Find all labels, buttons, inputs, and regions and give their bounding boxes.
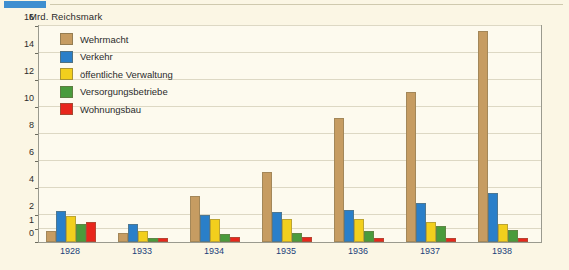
- bar-group: [262, 26, 312, 242]
- y-axis-tick: 0: [8, 228, 34, 238]
- x-axis-tick: 1936: [348, 246, 368, 256]
- bar: [292, 233, 302, 242]
- bar: [446, 238, 456, 242]
- bar: [86, 222, 96, 242]
- bar: [436, 226, 446, 242]
- bar-group: [406, 26, 456, 242]
- y-axis-tick: 12: [8, 66, 34, 76]
- bar-group: [334, 26, 384, 242]
- y-axis-tick: 2: [8, 201, 34, 211]
- bar: [282, 219, 292, 242]
- page-marker: [4, 1, 46, 8]
- y-axis-tick: 4: [8, 174, 34, 184]
- legend-item: Wehrmacht: [60, 33, 173, 45]
- y-axis-unit-label: Mrd. Reichsmark: [29, 11, 102, 22]
- legend-item-label: öffentliche Verwaltung: [80, 69, 173, 80]
- x-axis-tick-labels: 1928193319341935193619371938: [38, 246, 542, 260]
- x-axis-tick: 1938: [492, 246, 512, 256]
- y-axis-tick: 10: [8, 93, 34, 103]
- y-axis-tick: 1: [8, 215, 34, 225]
- y-axis-tick-labels: 01246810121416: [4, 25, 34, 243]
- bar: [158, 238, 168, 242]
- y-axis-tick: 8: [8, 120, 34, 130]
- bar: [148, 238, 158, 242]
- y-axis-tick: 6: [8, 147, 34, 157]
- legend-item-label: Versorgungsbetriebe: [80, 86, 168, 97]
- bar: [46, 231, 56, 242]
- legend-item-label: Wehrmacht: [80, 34, 128, 45]
- bar: [230, 237, 240, 242]
- bar-group: [478, 26, 528, 242]
- bar: [262, 172, 272, 242]
- bar: [416, 203, 426, 242]
- bar: [190, 196, 200, 242]
- legend-item: Wohnungsbau: [60, 103, 173, 115]
- bar: [344, 210, 354, 242]
- legend-swatch-icon: [60, 68, 73, 80]
- bar: [76, 224, 86, 242]
- bar: [56, 211, 66, 242]
- legend-swatch-icon: [60, 103, 73, 115]
- legend-item-label: Wohnungsbau: [80, 104, 141, 115]
- bar: [138, 231, 148, 242]
- legend-swatch-icon: [60, 86, 73, 98]
- bar: [66, 216, 76, 242]
- bar: [200, 215, 210, 242]
- bar: [272, 212, 282, 242]
- bar: [210, 219, 220, 242]
- bar: [302, 237, 312, 242]
- x-axis-tick: 1935: [276, 246, 296, 256]
- bar: [518, 238, 528, 242]
- legend-item-label: Verkehr: [80, 51, 113, 62]
- bar: [220, 234, 230, 242]
- x-axis-tick: 1934: [204, 246, 224, 256]
- chart-legend: WehrmachtVerkehröffentliche VerwaltungVe…: [60, 33, 173, 115]
- legend-swatch-icon: [60, 51, 73, 63]
- bar: [354, 219, 364, 242]
- x-axis-tick: 1928: [60, 246, 80, 256]
- legend-item: öffentliche Verwaltung: [60, 68, 173, 80]
- bar: [406, 92, 416, 242]
- bar: [128, 224, 138, 242]
- bar: [478, 31, 488, 242]
- legend-swatch-icon: [60, 33, 73, 45]
- x-axis-tick: 1933: [132, 246, 152, 256]
- header-rule: [50, 4, 563, 5]
- bar: [488, 193, 498, 242]
- legend-item: Versorgungsbetriebe: [60, 86, 173, 98]
- bar-group: [190, 26, 240, 242]
- y-axis-tick: 16: [8, 12, 34, 22]
- bar: [364, 231, 374, 242]
- x-axis-tick: 1937: [420, 246, 440, 256]
- bar: [334, 118, 344, 242]
- legend-item: Verkehr: [60, 51, 173, 63]
- bar: [374, 238, 384, 242]
- bar: [498, 224, 508, 242]
- bar: [426, 222, 436, 242]
- bar: [118, 233, 128, 242]
- y-axis-tick: 14: [8, 39, 34, 49]
- bar: [508, 230, 518, 242]
